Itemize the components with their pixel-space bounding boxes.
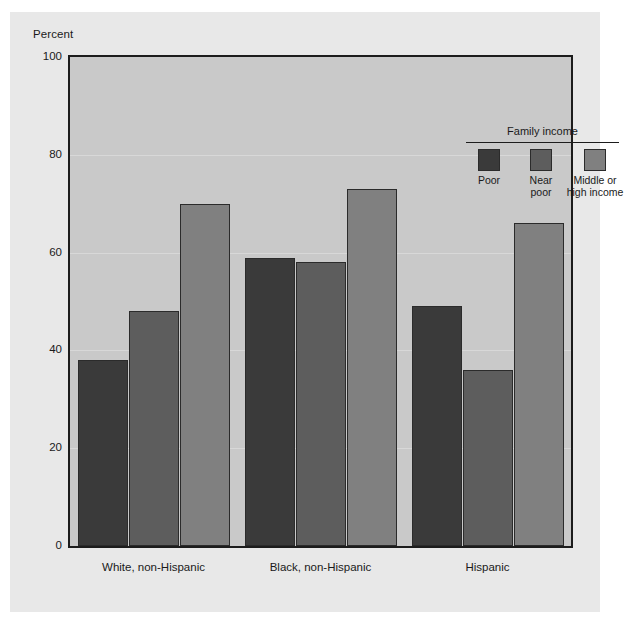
bar bbox=[180, 204, 230, 546]
y-axis-title: Percent bbox=[33, 28, 73, 40]
x-axis-category-label: Hispanic bbox=[388, 561, 588, 573]
bar bbox=[296, 262, 346, 546]
y-axis-tick-label: 40 bbox=[24, 344, 62, 356]
bar bbox=[347, 189, 397, 546]
legend-item: Middle or high income bbox=[564, 149, 626, 198]
legend-label: Near poor bbox=[518, 175, 564, 198]
bar bbox=[245, 258, 295, 547]
y-axis-tick-label: 100 bbox=[24, 51, 62, 63]
legend-item: Poor bbox=[466, 149, 512, 187]
legend-swatch bbox=[584, 149, 606, 171]
legend-item: Near poor bbox=[518, 149, 564, 198]
y-axis-tick-label: 60 bbox=[24, 247, 62, 259]
legend: Family income PoorNear poorMiddle or hig… bbox=[460, 125, 625, 217]
plot-area: Family income PoorNear poorMiddle or hig… bbox=[68, 55, 573, 548]
bar bbox=[78, 360, 128, 546]
legend-divider bbox=[466, 142, 619, 143]
legend-swatch bbox=[530, 149, 552, 171]
bar bbox=[129, 311, 179, 546]
legend-title: Family income bbox=[460, 125, 625, 137]
bar bbox=[412, 306, 462, 546]
legend-label: Poor bbox=[466, 175, 512, 187]
y-axis-tick-label: 0 bbox=[24, 540, 62, 552]
legend-label: Middle or high income bbox=[564, 175, 626, 198]
y-axis-tick-label: 80 bbox=[24, 149, 62, 161]
gridline bbox=[70, 253, 571, 254]
plot-inner: Family income PoorNear poorMiddle or hig… bbox=[70, 57, 571, 546]
bar bbox=[514, 223, 564, 546]
y-axis-tick-label: 20 bbox=[24, 442, 62, 454]
bar bbox=[463, 370, 513, 546]
legend-swatch bbox=[478, 149, 500, 171]
